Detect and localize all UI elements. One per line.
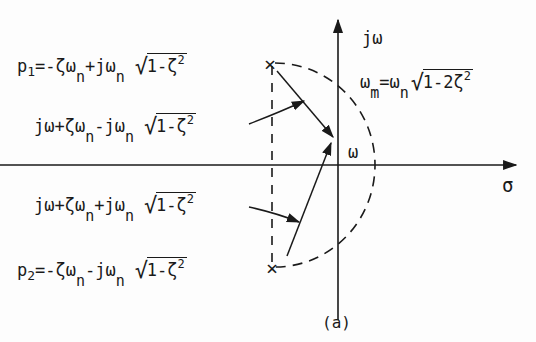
- imag-axis-label: jω: [362, 30, 382, 47]
- sqrt-symbol: √1-ζ2: [144, 197, 196, 214]
- pole-p1-formula: p1=-ζωn+jωn√1-ζ2: [17, 58, 187, 75]
- omega-m-formula: ωm=ωn√1-2ζ2: [360, 74, 473, 91]
- vector-lower-formula: jω+ζωn+jωn√1-ζ2: [34, 197, 196, 214]
- vector-upper-formula: jω+ζωn-jωn√1-ζ2: [34, 118, 196, 135]
- sqrt-symbol: √1-ζ2: [144, 118, 196, 135]
- pointer-upper: [249, 101, 304, 124]
- sqrt-symbol: √1-2ζ2: [411, 74, 473, 91]
- pole-p2-marker: ×: [266, 258, 278, 278]
- real-axis-label: σ: [502, 176, 513, 195]
- figure-caption: (a): [322, 315, 351, 331]
- sqrt-symbol: √1-ζ2: [135, 58, 187, 75]
- pole-p2-formula: p2=-ζωn-jωn√1-ζ2: [17, 262, 187, 279]
- vector-from-p2: [287, 143, 331, 256]
- omega-point-label: ω: [348, 144, 358, 161]
- vector-from-p1: [277, 71, 333, 137]
- root-locus-diagram: × × jω σ ω ωm=ωn√1-2ζ2 p1=-ζωn+jωn√1-ζ2 …: [0, 0, 536, 342]
- pointer-lower: [249, 207, 299, 222]
- sqrt-symbol: √1-ζ2: [135, 262, 187, 279]
- pole-p1-marker: ×: [264, 54, 276, 74]
